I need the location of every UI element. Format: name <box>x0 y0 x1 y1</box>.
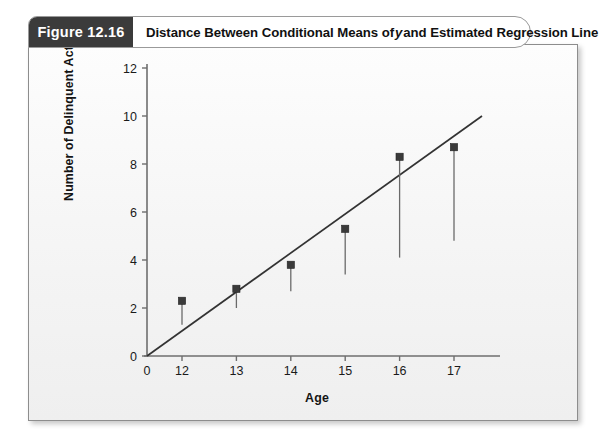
figure-title: Distance Between Conditional Means of y … <box>133 17 598 47</box>
figure-container: Figure 12.16 Distance Between Conditiona… <box>0 0 608 433</box>
figure-panel <box>28 44 578 421</box>
figure-title-variable: y <box>394 25 403 40</box>
y-axis-label: Number of Delinquent Acts <box>62 20 76 220</box>
figure-number-tag: Figure 12.16 <box>29 17 133 47</box>
x-axis-label: Age <box>147 391 487 405</box>
figure-header: Figure 12.16 Distance Between Conditiona… <box>28 16 531 48</box>
figure-title-suffix: and Estimated Regression Line <box>403 25 598 40</box>
figure-title-prefix: Distance Between Conditional Means of <box>146 25 394 40</box>
